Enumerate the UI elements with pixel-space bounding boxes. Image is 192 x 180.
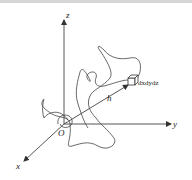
h-vector-label: h xyxy=(107,93,112,103)
coordinate-diagram: z y x O h dxdydz xyxy=(0,0,192,180)
volume-element-label: dxdydz xyxy=(138,79,159,87)
origin-label: O xyxy=(58,128,65,138)
y-axis-label: y xyxy=(172,119,177,129)
x-axis-label: x xyxy=(15,161,20,171)
z-axis-label: z xyxy=(65,10,70,20)
irregular-body-outline xyxy=(42,46,141,148)
volume-element-cube xyxy=(128,75,138,85)
